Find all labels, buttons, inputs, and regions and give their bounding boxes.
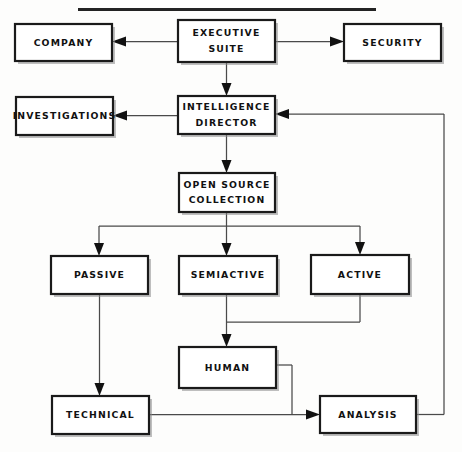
node-open-source-collection-label-line1: OPEN SOURCE [183,179,270,190]
node-security[interactable]: SECURITY [344,24,444,64]
node-technical[interactable]: TECHNICAL [52,396,152,437]
node-open-source-collection[interactable]: OPEN SOURCE COLLECTION [179,173,278,215]
node-intelligence-director[interactable]: INTELLIGENCE DIRECTOR [178,96,278,137]
arrow-head-down-icon [222,83,232,96]
node-analysis[interactable]: ANALYSIS [320,396,419,436]
node-intelligence-director-label-line2: DIRECTOR [195,117,257,128]
node-executive-suite[interactable]: EXECUTIVE SUITE [178,20,278,65]
connector-exec-to-company [112,37,178,47]
node-company[interactable]: COMPANY [15,24,115,64]
node-open-source-collection-label-line2: COLLECTION [189,194,266,205]
arrow-head-down-icon [222,243,232,256]
arrow-head-down-icon [94,243,104,256]
arrow-head-down-icon [355,242,365,255]
node-analysis-label: ANALYSIS [338,409,397,420]
flowchart-canvas: COMPANY EXECUTIVE SUITE SECURITY INVESTI… [0,0,462,452]
arrow-head-down-icon [222,160,232,173]
connector-intel-to-opensource [222,134,232,173]
node-active[interactable]: ACTIVE [311,255,412,297]
node-human-label: HUMAN [205,362,250,373]
node-passive[interactable]: PASSIVE [51,256,151,297]
node-active-label: ACTIVE [338,269,382,280]
arrow-head-down-icon [95,383,105,396]
arrow-head-down-icon [222,334,232,347]
arrow-head-right-icon [306,410,320,420]
node-investigations[interactable]: INVESTIGATIONS [13,97,117,138]
connector-opensource-fanout [94,212,365,256]
connector-technical-to-analysis [149,410,320,420]
node-semiactive[interactable]: SEMIACTIVE [179,256,280,297]
node-executive-suite-label-line1: EXECUTIVE [193,27,261,38]
connector-passive-to-technical [95,294,105,396]
node-intelligence-director-label-line1: INTELLIGENCE [183,101,271,112]
node-investigations-label: INVESTIGATIONS [13,110,117,121]
node-company-label: COMPANY [34,37,94,48]
node-human[interactable]: HUMAN [179,347,279,391]
node-technical-label: TECHNICAL [66,409,135,420]
connector-intel-to-investigations [113,111,178,121]
node-passive-label: PASSIVE [74,269,125,280]
node-executive-suite-label-line2: SUITE [208,43,244,54]
node-layer: COMPANY EXECUTIVE SUITE SECURITY INVESTI… [13,20,444,437]
arrow-head-right-icon [330,37,344,47]
connector-merge-to-human [222,294,361,347]
node-security-label: SECURITY [362,37,422,48]
node-semiactive-label: SEMIACTIVE [191,269,266,280]
connector-exec-to-security [275,37,344,47]
organizational-flowchart: COMPANY EXECUTIVE SUITE SECURITY INVESTI… [0,0,462,452]
connector-exec-to-intel [222,62,232,96]
